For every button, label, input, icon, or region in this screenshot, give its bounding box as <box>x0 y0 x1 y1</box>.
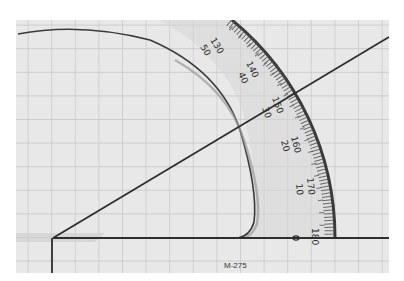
label-10: 10 <box>294 183 305 196</box>
model-label: M-275 <box>224 261 247 270</box>
protractor-photo: 130 50 140 40 150 30 160 20 170 10 180 M… <box>16 20 389 273</box>
label-170: 170 <box>305 177 317 195</box>
protractor-scene: 130 50 140 40 150 30 160 20 170 10 180 <box>16 20 389 273</box>
label-180: 180 <box>310 228 320 245</box>
